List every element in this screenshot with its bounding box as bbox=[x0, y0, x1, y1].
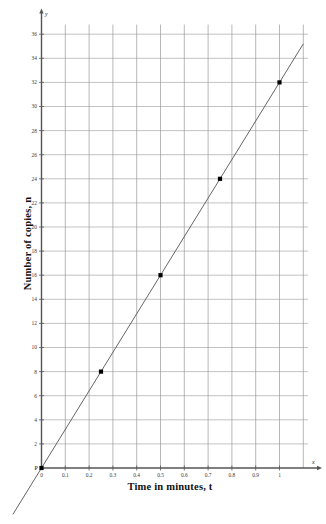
x-axis-tick-label: 0.4 bbox=[133, 472, 140, 478]
x-axis-title: Time in minutes, t bbox=[60, 481, 280, 492]
graph-svg: 24681012141618202224262830323436 00.10.2… bbox=[0, 0, 326, 524]
x-axis-tick-label: 0.5 bbox=[157, 472, 164, 478]
y-axis-tick-label: 30 bbox=[32, 103, 38, 109]
data-point-marker bbox=[218, 177, 222, 181]
axis-letters: yx bbox=[44, 11, 315, 465]
y-axis-arrow-icon bbox=[39, 9, 43, 14]
y-axis-title: Number of copies, n bbox=[22, 174, 33, 314]
y-axis-tick-label: 32 bbox=[32, 79, 38, 85]
data-point-marker bbox=[158, 273, 162, 277]
y-axis-letter-label: y bbox=[44, 11, 48, 17]
x-axis-tick-label: 0.2 bbox=[86, 472, 93, 478]
x-axis-tick-label: 1 bbox=[278, 472, 281, 478]
grid-horizontal-lines bbox=[42, 34, 309, 444]
y-axis-tick-label: 34 bbox=[32, 55, 38, 61]
origin-point-label: P bbox=[35, 465, 39, 471]
x-axis-tick-label: 0.1 bbox=[62, 472, 69, 478]
y-axis-tick-label: 8 bbox=[34, 369, 37, 375]
x-axis-letter-label: x bbox=[311, 459, 315, 465]
y-axis-tick-label: 4 bbox=[34, 417, 37, 423]
x-axis-tick-labels: 00.10.20.30.40.50.60.70.80.91 bbox=[40, 472, 281, 478]
y-axis-tick-label: 10 bbox=[32, 344, 38, 350]
grid-vertical-lines bbox=[65, 25, 303, 468]
tick-marks bbox=[39, 34, 280, 470]
y-axis-tick-label: 26 bbox=[32, 152, 38, 158]
x-axis-tick-label: 0.6 bbox=[181, 472, 188, 478]
y-axis-tick-label: 12 bbox=[32, 320, 38, 326]
y-axis-tick-label: 28 bbox=[32, 128, 38, 134]
y-axis-tick-label: 6 bbox=[34, 393, 37, 399]
data-point-marker bbox=[99, 370, 103, 374]
x-axis-arrow-icon bbox=[317, 466, 322, 470]
x-axis-tick-label: 0.8 bbox=[229, 472, 236, 478]
x-axis-tick-label: 0 bbox=[40, 472, 43, 478]
data-point-marker bbox=[277, 80, 281, 84]
origin-label: P bbox=[35, 465, 39, 471]
x-axis-tick-label: 0.3 bbox=[110, 472, 117, 478]
chart-container: 24681012141618202224262830323436 00.10.2… bbox=[0, 0, 326, 524]
x-axis-tick-label: 0.7 bbox=[205, 472, 212, 478]
y-axis-tick-label: 2 bbox=[34, 441, 37, 447]
data-point-marker bbox=[39, 466, 43, 470]
y-axis-tick-label: 36 bbox=[32, 31, 38, 37]
x-axis-tick-label: 0.9 bbox=[252, 472, 259, 478]
